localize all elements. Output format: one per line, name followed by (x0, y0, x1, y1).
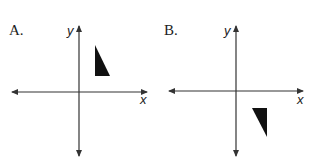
y-axis-label: y (66, 23, 75, 38)
x-axis-label: x (139, 92, 147, 107)
triangle-b (252, 108, 267, 137)
panel-a-label: A. (9, 22, 24, 38)
y-axis-label: y (223, 23, 232, 38)
x-axis-label: x (296, 92, 304, 107)
diagram-canvas: A. y x B. y x (0, 0, 313, 165)
panel-b-label: B. (164, 22, 178, 38)
triangle-a (95, 45, 110, 76)
panel-a: A. y x (9, 22, 147, 156)
panel-b: B. y x (164, 22, 304, 156)
